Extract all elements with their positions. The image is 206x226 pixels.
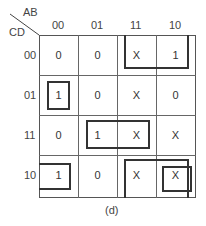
col-label-11: 11	[130, 19, 141, 31]
col-var-label: AB	[23, 6, 38, 18]
cell-r1-c2: X	[117, 75, 156, 115]
cell-r3-c2: X	[117, 155, 156, 195]
cell-r2-c0: 0	[39, 115, 78, 155]
cell-r0-c1: 0	[78, 35, 117, 75]
col-label-01: 01	[91, 19, 103, 31]
row-label-01: 01	[24, 89, 36, 101]
cell-r3-c1: 0	[78, 155, 117, 195]
figure-caption: (d)	[105, 204, 118, 216]
col-label-00: 00	[52, 19, 64, 31]
row-var-label: CD	[9, 26, 25, 38]
cell-r2-c2: X	[117, 115, 156, 155]
cell-r1-c3: 0	[156, 75, 195, 115]
cell-r2-c1: 1	[78, 115, 117, 155]
cell-r0-c0: 0	[39, 35, 78, 75]
cell-r0-c3: 1	[156, 35, 195, 75]
cell-r1-c0: 1	[39, 75, 78, 115]
cell-r3-c3: X	[156, 155, 195, 195]
cell-r1-c1: 0	[78, 75, 117, 115]
row-label-11: 11	[24, 129, 35, 141]
row-label-10: 10	[24, 169, 36, 181]
col-label-10: 10	[169, 19, 181, 31]
cell-r2-c3: X	[156, 115, 195, 155]
row-label-00: 00	[24, 49, 36, 61]
cell-r3-c0: 1	[39, 155, 78, 195]
cell-r0-c2: X	[117, 35, 156, 75]
